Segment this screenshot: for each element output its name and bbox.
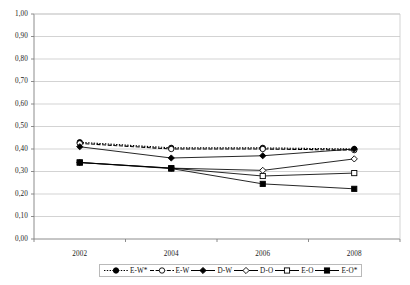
data-point-d-w (168, 155, 174, 161)
data-point-e-o (260, 181, 265, 186)
y-tick-label: 0,90 (2, 32, 28, 40)
y-tick-label: 0,30 (2, 167, 28, 175)
legend-label-d-o: D-O (259, 267, 274, 275)
legend-label-e-o: E-O (300, 267, 314, 275)
y-tick-label: 0,50 (2, 122, 28, 130)
y-tick-label: 0,40 (2, 145, 28, 153)
legend-sample-d-o (233, 265, 259, 276)
legend-marker-e-o (285, 268, 290, 273)
series-line-e-o (80, 163, 355, 189)
legend-sample-d-w (190, 265, 216, 276)
y-tick-label: 0,20 (2, 190, 28, 198)
x-tick-label: 2006 (243, 250, 283, 258)
data-point-e-o (352, 170, 357, 175)
legend-marker-e-o (325, 268, 330, 273)
legend-sample-e-o (274, 265, 300, 276)
legend-label-e-w: E-W* (129, 267, 149, 275)
legend-label-e-o: E-O* (340, 267, 358, 275)
legend-marker-e-w (159, 268, 164, 273)
axis-lines-group (31, 14, 400, 242)
y-tick-label: 0,00 (2, 235, 28, 243)
x-tick-label: 2008 (334, 250, 374, 258)
data-point-e-w (169, 146, 174, 151)
legend-sample-e-o (314, 265, 340, 276)
legend-item-d-w[interactable]: D-W (190, 265, 233, 276)
data-point-e-w (260, 146, 265, 151)
chart-container: 1,000,900,800,700,600,500,400,300,200,10… (0, 0, 410, 285)
y-tick-label: 0,70 (2, 77, 28, 85)
data-point-e-o (260, 173, 265, 178)
line-chart-plot (0, 0, 410, 285)
legend-sample-e-w (149, 265, 175, 276)
legend-item-d-o[interactable]: D-O (233, 265, 274, 276)
legend-label-e-w: E-W (175, 267, 191, 275)
data-point-e-o (352, 186, 357, 191)
x-tick-label: 2004 (151, 250, 191, 258)
data-point-e-o (169, 166, 174, 171)
legend-label-d-w: D-W (216, 267, 233, 275)
legend-item-e-o[interactable]: E-O* (314, 265, 358, 276)
y-tick-label: 1,00 (2, 10, 28, 18)
legend-marker-d-w (200, 267, 206, 273)
chart-legend: E-W*E-WD-WD-OE-OE-O* (99, 264, 362, 277)
legend-marker-d-o (243, 267, 249, 273)
data-point-e-o (77, 160, 82, 165)
legend-item-e-w[interactable]: E-W* (103, 265, 149, 276)
y-tick-label: 0,10 (2, 212, 28, 220)
y-tick-label: 0,80 (2, 55, 28, 63)
legend-item-e-w[interactable]: E-W (149, 265, 191, 276)
legend-item-e-o[interactable]: E-O (274, 265, 314, 276)
gridlines-group (34, 14, 400, 217)
legend-sample-e-w (103, 265, 129, 276)
data-point-d-o (351, 156, 357, 162)
data-point-d-w (260, 153, 266, 159)
legend-marker-e-w (113, 268, 118, 273)
data-point-d-o (260, 167, 266, 173)
y-tick-label: 0,60 (2, 100, 28, 108)
x-tick-label: 2002 (60, 250, 100, 258)
